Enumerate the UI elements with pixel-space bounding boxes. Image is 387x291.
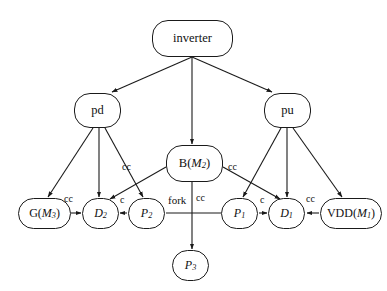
node-d1[interactable]: D1 [268, 198, 305, 229]
node-label-vdd: VDD(M1) [327, 206, 375, 220]
label-p1-d1: c [260, 195, 264, 205]
label-vdd-d1: cc [306, 194, 315, 204]
node-pu[interactable]: pu [264, 93, 311, 128]
diagram-canvas: inverterpdpuB(M2)G(M3)D2P2P1D1VDD(M1)P3c… [0, 0, 387, 291]
node-label-inverter: inverter [173, 32, 212, 45]
edge-pd-gm3 [48, 128, 93, 197]
edge-pu-vdd [293, 128, 342, 197]
node-p2[interactable]: P2 [128, 198, 165, 229]
edge-bm2-d2 [110, 167, 166, 199]
node-pd[interactable]: pd [74, 93, 121, 128]
node-label-pu: pu [281, 104, 294, 117]
node-inverter[interactable]: inverter [152, 20, 233, 57]
node-label-p1: P1 [234, 206, 245, 220]
node-label-pd: pd [91, 104, 104, 117]
node-label-p3: P3 [185, 258, 196, 272]
node-label-bm2: B(M2) [179, 156, 210, 169]
node-p1[interactable]: P1 [221, 198, 258, 229]
label-p2-d2: c [120, 195, 124, 205]
edge-pu-p1 [243, 128, 281, 197]
label-gm3-d2: cc [64, 194, 73, 204]
node-bm2[interactable]: B(M2) [166, 145, 223, 182]
label-bm2-d1: cc [228, 162, 237, 172]
node-label-gm3: G(M3) [29, 206, 60, 220]
node-p3[interactable]: P3 [172, 250, 209, 281]
edge-inverter-pu [192, 57, 272, 92]
node-d2[interactable]: D2 [82, 198, 119, 229]
node-label-d1: D1 [280, 206, 293, 220]
label-fork: fork [168, 195, 186, 206]
label-bm2-d2: cc [122, 162, 131, 172]
node-vdd[interactable]: VDD(M1) [320, 198, 382, 229]
node-label-p2: P2 [141, 206, 152, 220]
edge-inverter-pd [112, 57, 192, 92]
label-bm2-p3: cc [196, 193, 205, 203]
node-label-d2: D2 [94, 206, 107, 220]
